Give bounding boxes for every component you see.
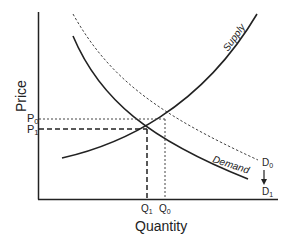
diagram-canvas: Price Quantity P0 P1 Q1 Q0 Supply Demand… [0, 0, 285, 238]
supply-demand-diagram: Price Quantity P0 P1 Q1 Q0 Supply Demand… [0, 0, 285, 238]
d1-label: D1 [262, 186, 273, 198]
x-axis-label: Quantity [135, 218, 187, 234]
q1-label: Q1 [141, 203, 153, 215]
d0-label: D0 [262, 157, 273, 169]
q0-label: Q0 [159, 203, 171, 215]
shift-arrow-icon [261, 179, 267, 185]
y-axis-label: Price [13, 80, 29, 112]
